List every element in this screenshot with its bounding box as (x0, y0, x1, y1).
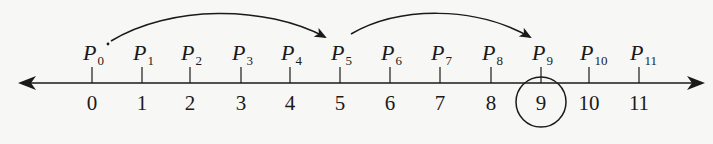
tick-5: P55 (330, 40, 352, 115)
number-line-axis (18, 76, 705, 90)
number-line-diagram: P00P11P22P33P44P55P66P77P88P99P1010P1111 (0, 0, 713, 144)
tick-2: P22 (180, 40, 202, 115)
jump-arc-p0-to-p5 (111, 13, 325, 41)
point-label: P6 (380, 40, 402, 68)
tick-number: 1 (137, 91, 148, 115)
tick-8: P88 (481, 40, 503, 115)
tick-10: P1010 (579, 40, 608, 115)
tick-number: 9 (536, 91, 547, 115)
point-label: P3 (231, 40, 253, 68)
tick-number: 8 (486, 91, 497, 115)
point-label: P1 (132, 40, 154, 68)
tick-1: P11 (132, 40, 154, 115)
tick-number: 6 (385, 91, 396, 115)
marker-dot (107, 43, 110, 46)
tick-0: P00 (82, 40, 104, 115)
tick-6: P66 (380, 40, 402, 115)
tick-number: 10 (579, 91, 600, 115)
tick-7: P77 (430, 40, 452, 115)
tick-number: 0 (87, 91, 98, 115)
tick-number: 11 (629, 91, 649, 115)
jump-arcs (111, 13, 530, 41)
point-label: P4 (280, 40, 302, 68)
point-label: P8 (481, 40, 503, 68)
tick-11: P1111 (629, 40, 657, 115)
jump-arc-p5-to-p9 (351, 13, 530, 37)
tick-number: 3 (236, 91, 247, 115)
tick-4: P44 (280, 40, 302, 115)
point-label: P5 (330, 40, 352, 68)
point-label: P9 (531, 40, 553, 68)
tick-group: P00P11P22P33P44P55P66P77P88P99P1010P1111 (82, 40, 657, 115)
tick-3: P33 (231, 40, 253, 115)
point-label: P7 (430, 40, 452, 68)
point-label: P11 (629, 40, 657, 68)
tick-number: 7 (435, 91, 446, 115)
point-label: P2 (180, 40, 202, 68)
tick-number: 4 (285, 91, 296, 115)
tick-number: 5 (335, 91, 346, 115)
point-label: P0 (82, 40, 104, 68)
point-label: P10 (579, 40, 607, 68)
tick-number: 2 (185, 91, 196, 115)
